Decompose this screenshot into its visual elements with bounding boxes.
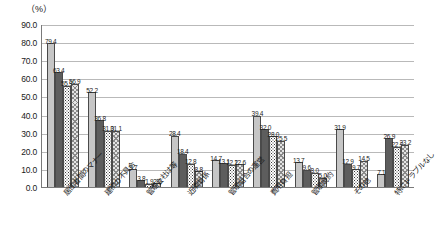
bar: 9.6 (303, 170, 311, 187)
bar-slot: 8.8 (195, 25, 203, 187)
bar-slot: 31.1 (112, 25, 120, 187)
y-axis-tick: 80.0 (21, 38, 37, 48)
y-axis-tick-labels: 90.080.070.060.050.040.030.020.010.00.0 (0, 25, 40, 188)
x-axis-label-cell: 管理会社は等 (124, 188, 165, 247)
bar: 63.4 (55, 72, 63, 187)
y-axis-tick: 30.0 (21, 129, 37, 139)
y-axis-tick: 70.0 (21, 56, 37, 66)
x-axis-label-cell: 費用負担 (248, 188, 289, 247)
x-axis-label-cell: 居住者間のマナー (41, 188, 82, 247)
bar-value-label: 9.6 (303, 165, 311, 172)
bar: 7.1 (377, 174, 385, 187)
bar-slot: 79.4 (47, 25, 55, 187)
bar-slot: 5.0 (319, 25, 327, 187)
bar-value-label: 31.1 (110, 126, 121, 133)
bar-group: 79.463.455.956.9 (42, 25, 83, 187)
bar-slot: 13.7 (295, 25, 303, 187)
bar: 55.9 (63, 86, 71, 187)
x-axis-category-labels: 居住者間のマナー建物の不具合管理会社は等近隣関係管理組合の運営費用負担管理規約そ… (41, 188, 414, 247)
bar-slot: 23.2 (401, 25, 409, 187)
y-axis-tick: 40.0 (21, 111, 37, 121)
bar-value-label: 7.1 (377, 170, 385, 177)
x-axis-label-cell: その他 (331, 188, 372, 247)
y-axis-tick: 90.0 (21, 20, 37, 30)
bar-value-label: 9.7 (352, 165, 360, 172)
bar-group: 31.912.99.714.5 (331, 25, 372, 187)
bar-slot: 12.6 (236, 25, 244, 187)
y-axis-tick: 0.0 (26, 183, 37, 193)
x-axis-label-cell: 特にトラブルなし (373, 188, 414, 247)
bar-slot: 1.9 (145, 25, 153, 187)
bar-value-label: 14.5 (358, 156, 369, 163)
x-axis-label-cell: 建物の不具合 (82, 188, 123, 247)
bar-slot: 55.9 (63, 25, 71, 187)
bar-slot: 28.0 (269, 25, 277, 187)
bar-slot: 7.1 (377, 25, 385, 187)
x-axis-label-cell: 管理規約 (290, 188, 331, 247)
bar-value-label: 8.0 (311, 168, 319, 175)
bar-slot: 3.8 (137, 25, 145, 187)
bar-value-label: 12.6 (234, 160, 245, 167)
bar-slot: 26.9 (385, 25, 393, 187)
y-axis-tick: 10.0 (21, 165, 37, 175)
bar-value-label: 56.9 (69, 79, 80, 86)
bar: 13.7 (295, 162, 303, 187)
bar-slot: 56.9 (71, 25, 79, 187)
bar: 3.8 (137, 180, 145, 187)
y-axis-tick: 20.0 (21, 147, 37, 157)
x-axis-label-cell: 近隣関係 (165, 188, 206, 247)
bar-slot: 12.9 (344, 25, 352, 187)
bar-value-label: 23.2 (400, 140, 411, 147)
bar-slot: 22.3 (393, 25, 401, 187)
bar-slot: 14.5 (360, 25, 368, 187)
bar-group: 14.713.112.212.6 (207, 25, 248, 187)
bar-group: 13.79.68.05.0 (290, 25, 331, 187)
bar-slot: 12.8 (187, 25, 195, 187)
bar-slot: 25.5 (277, 25, 285, 187)
x-axis-label-cell: 管理組合の運営 (207, 188, 248, 247)
bar: 79.4 (47, 43, 55, 187)
bar-value-label: 3.8 (137, 176, 145, 183)
bar-slot: 63.4 (55, 25, 63, 187)
bar-group: 7.126.922.323.2 (373, 25, 414, 187)
bar-slot: 2.0 (153, 25, 161, 187)
y-axis-tick: 60.0 (21, 74, 37, 84)
bar: 12.9 (344, 164, 352, 187)
bar-slot: 9.6 (303, 25, 311, 187)
bar-slot: 8.0 (311, 25, 319, 187)
y-axis-tick: 50.0 (21, 92, 37, 102)
bar-slot: 31.0 (104, 25, 112, 187)
bar-value-label: 25.5 (276, 136, 287, 143)
y-axis-unit-label: （%） (26, 2, 52, 15)
